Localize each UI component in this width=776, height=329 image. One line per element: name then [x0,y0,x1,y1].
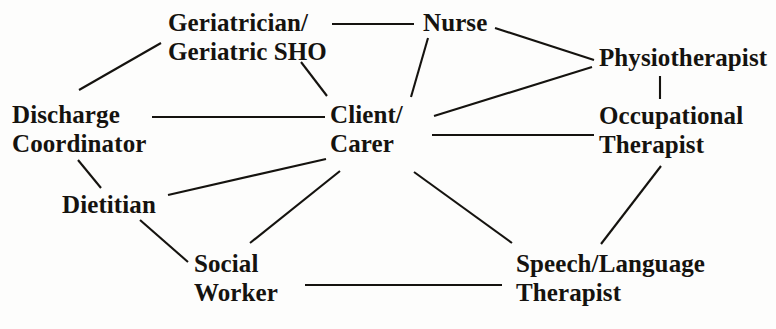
node-discharge-coordinator[interactable]: DischargeCoordinator [12,100,146,158]
node-label-occupational-therapist-line2: Therapist [599,130,743,159]
node-label-physiotherapist-line1: Physiotherapist [599,44,767,71]
node-geriatrician[interactable]: Geriatrician/Geriatric SHO [168,8,327,66]
node-occupational-therapist[interactable]: OccupationalTherapist [599,101,743,159]
node-dietitian[interactable]: Dietitian [62,190,156,219]
edge-occupational-therapist-to-speech-language-therapist [601,166,661,244]
node-client-carer[interactable]: Client/Carer [330,100,403,158]
node-label-discharge-coordinator-line2: Coordinator [12,129,146,158]
node-social-worker[interactable]: SocialWorker [194,249,278,307]
edge-geriatrician-to-client-carer [301,62,327,96]
edge-dietitian-to-social-worker [140,220,188,262]
node-physiotherapist[interactable]: Physiotherapist [599,43,767,72]
node-nurse[interactable]: Nurse [423,8,487,37]
team-network-diagram: Geriatrician/Geriatric SHONursePhysiothe… [0,0,776,329]
edge-geriatrician-to-discharge-coordinator [79,43,161,90]
edge-client-carer-to-dietitian [168,159,326,195]
node-label-speech-language-therapist-line2: Therapist [516,278,705,307]
edge-discharge-coordinator-to-dietitian [78,160,101,188]
node-label-dietitian-line1: Dietitian [62,191,156,218]
node-label-speech-language-therapist-line1: Speech/Language [516,250,705,277]
node-label-occupational-therapist-line1: Occupational [599,102,743,129]
edge-client-carer-to-speech-language-therapist [414,172,512,243]
node-label-nurse-line1: Nurse [423,9,487,36]
node-label-geriatrician-line1: Geriatrician/ [168,9,308,36]
node-label-discharge-coordinator-line1: Discharge [12,101,120,128]
node-label-geriatrician-line2: Geriatric SHO [168,37,327,66]
node-label-social-worker-line2: Worker [194,278,278,307]
edge-client-carer-to-social-worker [250,171,340,243]
edge-nurse-to-physiotherapist [495,28,594,60]
node-label-client-carer-line2: Carer [330,129,403,158]
edge-physiotherapist-to-client-carer [434,67,592,116]
edge-nurse-to-client-carer [411,38,428,97]
node-speech-language-therapist[interactable]: Speech/LanguageTherapist [516,249,705,307]
node-label-client-carer-line1: Client/ [330,101,403,128]
node-label-social-worker-line1: Social [194,250,259,277]
